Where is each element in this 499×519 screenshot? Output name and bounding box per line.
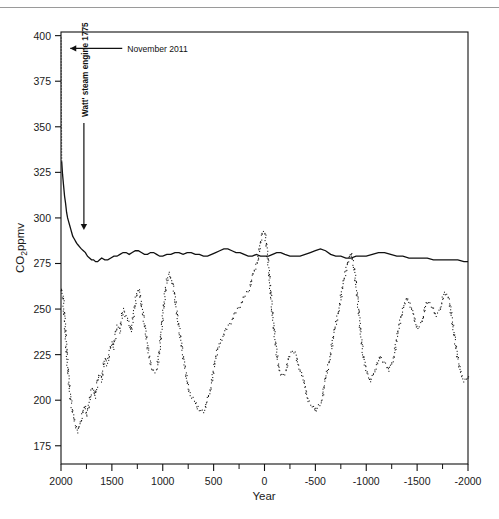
data-dot	[129, 327, 130, 328]
x-axis-tick-label: 1500	[100, 475, 124, 487]
data-dot	[343, 283, 344, 284]
x-axis-tick-label: 1000	[151, 475, 175, 487]
data-dot	[190, 392, 191, 393]
data-dot	[314, 409, 315, 410]
data-dot	[254, 270, 255, 271]
data-dot	[358, 313, 359, 314]
data-dot	[98, 379, 99, 380]
data-dot	[150, 362, 151, 363]
data-dot	[460, 372, 461, 373]
data-dot	[131, 331, 132, 332]
data-dot	[181, 350, 182, 351]
data-dot	[74, 419, 75, 420]
data-dot	[405, 303, 406, 304]
data-dot	[183, 364, 184, 365]
data-dot	[460, 366, 461, 367]
data-dot	[337, 319, 338, 320]
data-dot	[297, 361, 298, 362]
data-dot	[71, 403, 72, 404]
data-dot	[455, 337, 456, 338]
data-dot	[353, 267, 354, 268]
data-dot	[265, 240, 266, 241]
data-dot	[276, 346, 277, 347]
data-dot	[185, 366, 186, 367]
data-dot	[113, 349, 114, 350]
x-axis: 2000150010005000-500-1000-1500-2000	[49, 464, 481, 487]
data-dot	[382, 362, 383, 363]
data-dot	[333, 332, 334, 333]
data-dot	[63, 298, 64, 299]
data-dot	[95, 398, 96, 399]
data-dot	[172, 283, 173, 284]
data-dot	[268, 272, 269, 273]
data-dot	[258, 258, 259, 259]
data-dot	[284, 374, 285, 375]
data-dot	[277, 357, 278, 358]
data-dot	[270, 298, 271, 299]
data-dot	[327, 370, 328, 371]
data-dot	[159, 351, 160, 352]
data-dot	[188, 391, 189, 392]
data-dot	[329, 356, 330, 357]
data-dot	[327, 364, 328, 365]
data-dot	[445, 294, 446, 295]
data-dot	[164, 296, 165, 297]
data-dot	[333, 336, 334, 337]
data-dot	[452, 322, 453, 323]
data-dot	[66, 352, 67, 353]
data-dot	[182, 354, 183, 355]
data-dot	[274, 333, 275, 334]
data-dot	[362, 348, 363, 349]
data-dot	[351, 256, 352, 257]
data-dot	[269, 280, 270, 281]
data-dot	[203, 412, 204, 413]
data-dot	[225, 328, 226, 329]
data-dot	[324, 385, 325, 386]
data-dot	[158, 352, 159, 353]
data-dot	[128, 321, 129, 322]
data-dot	[173, 284, 174, 285]
data-dot	[379, 358, 380, 359]
data-dot	[352, 265, 353, 266]
data-dot	[398, 333, 399, 334]
data-dot	[191, 398, 192, 399]
data-dot	[141, 306, 142, 307]
data-dot	[364, 365, 365, 366]
data-dot	[323, 392, 324, 393]
data-dot	[346, 270, 347, 271]
data-dot	[79, 426, 80, 427]
data-dot	[80, 421, 81, 422]
data-dot	[190, 395, 191, 396]
data-dot	[216, 356, 217, 357]
data-dot	[188, 384, 189, 385]
data-dot	[115, 338, 116, 339]
data-dot	[199, 410, 200, 411]
data-dot	[64, 330, 65, 331]
data-dot	[344, 271, 345, 272]
data-dot	[144, 326, 145, 327]
data-dot	[267, 262, 268, 263]
data-dot	[104, 363, 105, 364]
data-dot	[357, 307, 358, 308]
data-dot	[355, 284, 356, 285]
data-dot	[386, 367, 387, 368]
data-dot	[373, 374, 374, 375]
data-dot	[170, 277, 171, 278]
data-dot	[341, 296, 342, 297]
data-dot	[116, 329, 117, 330]
y-axis-title-tail: ppmv	[14, 223, 26, 251]
data-dot	[359, 327, 360, 328]
data-dot	[84, 407, 85, 408]
data-dot	[280, 374, 281, 375]
data-dot	[359, 320, 360, 321]
data-dot	[272, 317, 273, 318]
data-dot	[212, 374, 213, 375]
data-dot	[259, 251, 260, 252]
data-dot	[395, 347, 396, 348]
data-dot	[453, 334, 454, 335]
data-dot	[246, 291, 247, 292]
data-dot	[242, 301, 243, 302]
data-dot	[397, 331, 398, 332]
data-dot	[449, 303, 450, 304]
data-dot	[133, 322, 134, 323]
